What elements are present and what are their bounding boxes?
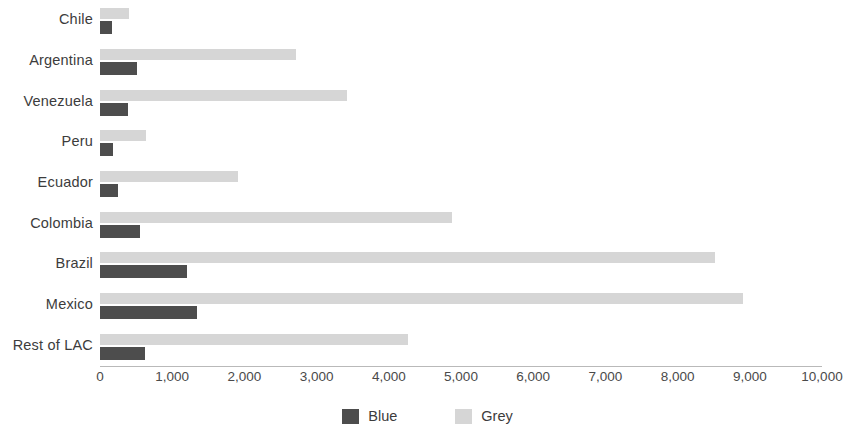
x-tick-label: 7,000 [588, 369, 622, 384]
bar-blue [100, 306, 197, 319]
chart-legend: BlueGrey [0, 408, 855, 424]
bar-blue [100, 103, 128, 116]
legend-item[interactable]: Grey [455, 408, 512, 424]
bar-blue [100, 225, 140, 238]
bar-grey [100, 49, 296, 60]
category-label: Mexico [0, 296, 93, 312]
category-label: Ecuador [0, 174, 93, 190]
bar-blue [100, 62, 137, 75]
x-axis-ticks: 01,0002,0003,0004,0005,0006,0007,0008,00… [0, 369, 855, 391]
x-tick-label: 4,000 [372, 369, 406, 384]
bar-grey [100, 8, 129, 19]
bar-blue [100, 347, 145, 360]
x-tick-label: 5,000 [444, 369, 478, 384]
x-tick-label: 9,000 [733, 369, 767, 384]
plot-area [100, 0, 822, 366]
category-axis: ChileArgentinaVenezuelaPeruEcuadorColomb… [0, 0, 93, 366]
x-tick-label: 10,000 [801, 369, 842, 384]
bar-grey [100, 212, 452, 223]
legend-label: Grey [481, 408, 512, 424]
bar-grey [100, 130, 146, 141]
category-label: Colombia [0, 215, 93, 231]
x-tick-label: 8,000 [661, 369, 695, 384]
bar-grey [100, 171, 238, 182]
category-label: Venezuela [0, 93, 93, 109]
x-axis-line [100, 366, 822, 367]
bar-blue [100, 143, 113, 156]
x-tick-label: 3,000 [300, 369, 334, 384]
category-label: Brazil [0, 255, 93, 271]
legend-swatch-icon [455, 409, 472, 424]
legend-swatch-icon [342, 409, 359, 424]
bar-grey [100, 293, 743, 304]
x-tick-label: 1,000 [155, 369, 189, 384]
bar-chart: ChileArgentinaVenezuelaPeruEcuadorColomb… [0, 0, 855, 441]
category-label: Peru [0, 133, 93, 149]
bar-blue [100, 184, 118, 197]
category-label: Argentina [0, 52, 93, 68]
category-label: Chile [0, 11, 93, 27]
bar-blue [100, 21, 112, 34]
legend-item[interactable]: Blue [342, 408, 397, 424]
x-tick-label: 6,000 [516, 369, 550, 384]
x-tick-label: 0 [96, 369, 104, 384]
bar-blue [100, 265, 187, 278]
category-label: Rest of LAC [0, 337, 93, 353]
legend-label: Blue [368, 408, 397, 424]
bar-grey [100, 90, 347, 101]
bar-grey [100, 252, 715, 263]
bar-grey [100, 334, 408, 345]
x-tick-label: 2,000 [227, 369, 261, 384]
